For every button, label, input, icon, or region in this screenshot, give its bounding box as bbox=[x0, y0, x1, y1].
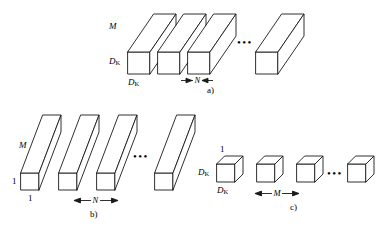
dimension-label-n-a: N bbox=[193, 76, 202, 85]
filter-block-last bbox=[155, 115, 195, 190]
ellipsis-b: ••• bbox=[133, 151, 149, 162]
label-width-dk-c: DK bbox=[217, 186, 228, 196]
filter-block-last bbox=[256, 14, 304, 74]
filter-cube bbox=[257, 156, 283, 182]
filter-cube bbox=[297, 156, 323, 182]
filter-block bbox=[21, 115, 61, 190]
filter-block bbox=[97, 115, 137, 190]
filter-cube bbox=[217, 156, 243, 182]
label-width-1-b: 1 bbox=[28, 194, 33, 203]
panel-b-shapes bbox=[0, 95, 210, 230]
filter-cube-last bbox=[348, 156, 374, 182]
ellipsis-a: ••• bbox=[237, 37, 253, 48]
dimension-label-m-c: M bbox=[272, 189, 282, 198]
caption-a: a) bbox=[207, 86, 214, 95]
ellipsis-c: ••• bbox=[327, 168, 343, 179]
label-height-dk-c: DK bbox=[198, 168, 209, 178]
filter-block bbox=[59, 115, 99, 190]
label-height-dk-a: DK bbox=[109, 57, 120, 67]
dimension-label-n-b: N bbox=[91, 196, 100, 205]
caption-b: b) bbox=[90, 210, 98, 219]
figure-canvas: M DK DK N ••• a) bbox=[0, 0, 385, 230]
label-width-dk-a: DK bbox=[128, 78, 139, 88]
panel-a: M DK DK N ••• a) bbox=[0, 0, 385, 95]
panel-b: M 1 1 N ••• b) bbox=[0, 95, 210, 230]
label-height-1-b: 1 bbox=[12, 177, 17, 186]
panel-c: 1 DK DK M ••• c) bbox=[195, 140, 385, 230]
label-depth-1-c: 1 bbox=[220, 145, 225, 154]
caption-c: c) bbox=[290, 203, 297, 212]
label-depth-m-a: M bbox=[109, 22, 117, 31]
label-depth-m-b: M bbox=[19, 141, 27, 150]
